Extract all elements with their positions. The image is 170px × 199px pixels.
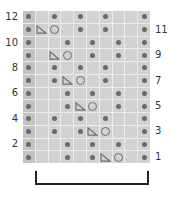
chart-cell <box>49 113 61 125</box>
chart-cell <box>100 113 112 125</box>
row-number-label: 5 <box>155 100 169 112</box>
chart-cell <box>23 62 35 74</box>
chart-cell <box>125 100 137 112</box>
purl-dot-icon <box>90 40 95 45</box>
chart-cell <box>61 75 73 87</box>
decrease-triangle-icon <box>62 76 73 85</box>
chart-cell <box>74 100 86 112</box>
purl-dot-icon <box>52 14 57 19</box>
chart-cell <box>36 11 48 23</box>
chart-cell <box>23 75 35 87</box>
purl-dot-icon <box>26 104 31 109</box>
purl-dot-icon <box>142 104 147 109</box>
chart-cell <box>74 88 86 100</box>
chart-cell <box>113 126 125 138</box>
purl-dot-icon <box>78 65 83 70</box>
chart-cell <box>87 113 99 125</box>
chart-cell <box>49 24 61 36</box>
chart-cell <box>49 100 61 112</box>
chart-cell <box>100 49 112 61</box>
chart-cell <box>23 37 35 49</box>
chart-cell <box>36 126 48 138</box>
chart-cell <box>113 139 125 151</box>
yarn-over-circle-icon <box>101 127 110 136</box>
chart-cell <box>61 49 73 61</box>
purl-dot-icon <box>26 27 31 32</box>
chart-cell <box>74 49 86 61</box>
purl-dot-icon <box>142 116 147 121</box>
purl-dot-icon <box>142 129 147 134</box>
chart-cell <box>87 139 99 151</box>
decrease-triangle-icon <box>87 127 98 136</box>
row-number-label: 6 <box>2 87 18 99</box>
chart-cell <box>61 100 73 112</box>
chart-cell <box>113 49 125 61</box>
purl-dot-icon <box>90 155 95 160</box>
chart-cell <box>49 126 61 138</box>
purl-dot-icon <box>142 65 147 70</box>
chart-cell <box>100 100 112 112</box>
purl-dot-icon <box>116 104 121 109</box>
chart-cell <box>36 37 48 49</box>
row-number-label: 10 <box>2 37 18 49</box>
purl-dot-icon <box>26 53 31 58</box>
chart-cell <box>23 113 35 125</box>
purl-dot-icon <box>142 155 147 160</box>
chart-cell <box>61 113 73 125</box>
chart-cell <box>113 151 125 163</box>
chart-cell <box>87 24 99 36</box>
row-number-label: 2 <box>2 138 18 150</box>
chart-cell <box>61 24 73 36</box>
chart-cell <box>125 37 137 49</box>
chart-cell <box>87 126 99 138</box>
purl-dot-icon <box>90 91 95 96</box>
purl-dot-icon <box>142 27 147 32</box>
purl-dot-icon <box>65 104 70 109</box>
purl-dot-icon <box>26 155 31 160</box>
chart-cell <box>49 88 61 100</box>
purl-dot-icon <box>103 78 108 83</box>
purl-dot-icon <box>26 14 31 19</box>
chart-cell <box>87 88 99 100</box>
purl-dot-icon <box>142 142 147 147</box>
purl-dot-icon <box>52 78 57 83</box>
chart-cell <box>23 88 35 100</box>
chart-cell <box>23 126 35 138</box>
chart-cell <box>23 100 35 112</box>
chart-cell <box>113 62 125 74</box>
chart-cell <box>138 75 150 87</box>
purl-dot-icon <box>116 53 121 58</box>
chart-cell <box>49 75 61 87</box>
chart-cell <box>138 24 150 36</box>
chart-cell <box>100 24 112 36</box>
chart-cell <box>100 62 112 74</box>
purl-dot-icon <box>116 142 121 147</box>
chart-cell <box>113 24 125 36</box>
yarn-over-circle-icon <box>114 153 123 162</box>
chart-cell <box>113 113 125 125</box>
chart-cell <box>61 88 73 100</box>
chart-cell <box>23 139 35 151</box>
chart-cell <box>138 126 150 138</box>
chart-cell <box>74 62 86 74</box>
row-number-label: 8 <box>2 62 18 74</box>
chart-cell <box>138 37 150 49</box>
chart-cell <box>74 113 86 125</box>
chart-cell <box>125 151 137 163</box>
chart-cell <box>61 11 73 23</box>
chart-cell <box>125 113 137 125</box>
chart-cell <box>61 151 73 163</box>
purl-dot-icon <box>116 40 121 45</box>
chart-cell <box>36 100 48 112</box>
chart-cell <box>49 151 61 163</box>
chart-cell <box>74 151 86 163</box>
purl-dot-icon <box>103 65 108 70</box>
chart-cell <box>138 62 150 74</box>
chart-cell <box>36 24 48 36</box>
chart-cell <box>113 100 125 112</box>
chart-cell <box>100 88 112 100</box>
chart-cell <box>125 24 137 36</box>
chart-cell <box>74 37 86 49</box>
chart-cell <box>100 37 112 49</box>
purl-dot-icon <box>52 116 57 121</box>
